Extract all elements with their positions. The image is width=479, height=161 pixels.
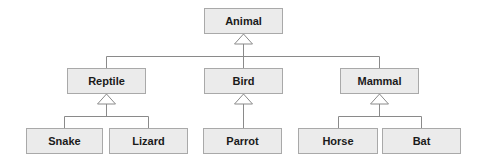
- inheritance-arrow-reptile: [98, 94, 116, 104]
- node-bird: Bird: [204, 68, 283, 94]
- node-horse: Horse: [298, 128, 378, 154]
- inheritance-arrow-animal: [235, 34, 253, 44]
- node-parrot: Parrot: [203, 128, 282, 154]
- node-reptile: Reptile: [67, 68, 146, 94]
- node-animal: Animal: [204, 8, 283, 34]
- node-mammal: Mammal: [340, 68, 419, 94]
- inheritance-arrow-mammal: [371, 94, 389, 104]
- inheritance-arrow-bird: [235, 94, 253, 104]
- node-snake: Snake: [26, 128, 103, 154]
- node-lizard: Lizard: [109, 128, 188, 154]
- node-bat: Bat: [382, 128, 461, 154]
